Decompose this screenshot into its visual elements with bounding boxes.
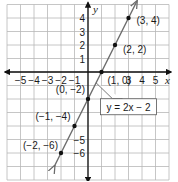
data-point [86,97,90,101]
axes: xy [5,3,171,182]
data-point-label: (0, −2) [56,84,85,95]
data-point-label: (1, 0) [108,75,131,86]
y-tick-label: 2 [79,40,85,51]
annotation: y = 2x − 2 [96,83,156,115]
x-tick-label: −3 [42,75,54,86]
y-tick-label: −5 [74,135,86,146]
data-point [113,43,117,47]
tick-labels: −5−4−3−2−13451234−5−6 [15,13,159,159]
data-point [126,16,130,20]
y-tick-label: 4 [79,13,85,24]
x-tick-label: 5 [153,75,159,86]
data-point-label: (3, 4) [137,15,160,26]
annotation-label: y = 2x − 2 [107,102,151,113]
data-point [72,124,76,128]
x-tick-label: −5 [15,75,27,86]
data-point [59,151,63,155]
x-tick-label: 4 [139,75,145,86]
x-tick-label: −4 [28,75,40,86]
data-point-label: (−1, −4) [35,111,70,122]
y-tick-label: −6 [74,148,86,159]
x-axis-label: x [164,74,170,86]
y-tick-label: 1 [79,54,85,65]
data-point-label: (−2, −6) [23,140,58,151]
y-tick-label: 3 [79,27,85,38]
chart: xy −5−4−3−2−13451234−5−6 (3, 4)(2, 2)(1,… [0,0,178,181]
data-point-label: (2, 2) [123,44,146,55]
y-axis-label: y [92,3,98,15]
data-point [99,70,103,74]
